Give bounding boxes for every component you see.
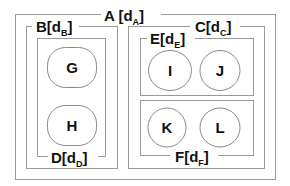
node-h-label: H	[67, 117, 78, 134]
node-l-label: L	[215, 119, 224, 136]
node-g-label: G	[66, 59, 78, 76]
node-i-label: I	[168, 62, 172, 79]
node-j-label: J	[216, 62, 224, 79]
nested-container-diagram: A [dA] B[dB] C[dC] E[dE] D[dD] F[dF] G H…	[0, 0, 290, 186]
node-k-label: K	[162, 119, 173, 136]
